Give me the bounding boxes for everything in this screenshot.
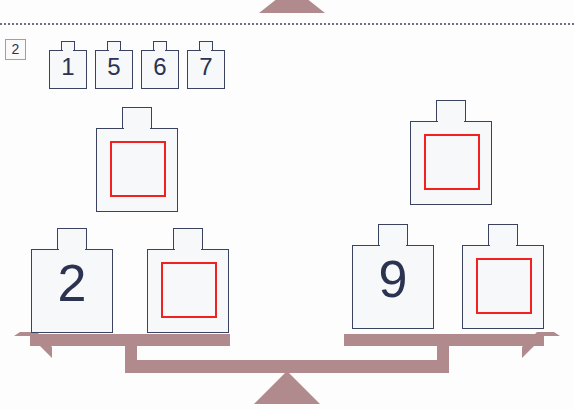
tile-tab: [488, 224, 518, 246]
tile-tab: [173, 228, 203, 250]
tile-tab-join: [438, 120, 465, 123]
left-pyramid-top-tile[interactable]: [96, 107, 178, 212]
tile-tab: [378, 224, 408, 246]
answer-blank-box[interactable]: [110, 141, 166, 197]
right-pyramid-top-tile[interactable]: [410, 100, 492, 205]
tile-tab: [57, 228, 87, 250]
tile-tab-join: [490, 244, 517, 247]
left-pyramid-bottom-right-tile[interactable]: [147, 228, 229, 333]
triangle-fulcrum-icon-bottom: [254, 371, 320, 404]
answer-blank-box[interactable]: [424, 134, 480, 190]
tile-tab: [122, 107, 152, 129]
right-pyramid-bottom-left-tile[interactable]: 9: [352, 224, 434, 329]
tile-tab: [436, 100, 466, 122]
right-pyramid-bottom-right-tile[interactable]: [462, 224, 544, 329]
tile-tab-join: [380, 244, 407, 247]
tile-tab-join: [175, 248, 202, 251]
answer-blank-box[interactable]: [161, 262, 217, 318]
tile-tab-join: [59, 248, 86, 251]
tile-label: 2: [31, 252, 113, 314]
left-pyramid-bottom-left-tile[interactable]: 2: [31, 228, 113, 333]
tile-label: 9: [352, 248, 434, 310]
worksheet-page: 2 1 5 6 7: [0, 0, 574, 409]
tile-tab-join: [124, 127, 151, 130]
answer-blank-box[interactable]: [476, 258, 532, 314]
